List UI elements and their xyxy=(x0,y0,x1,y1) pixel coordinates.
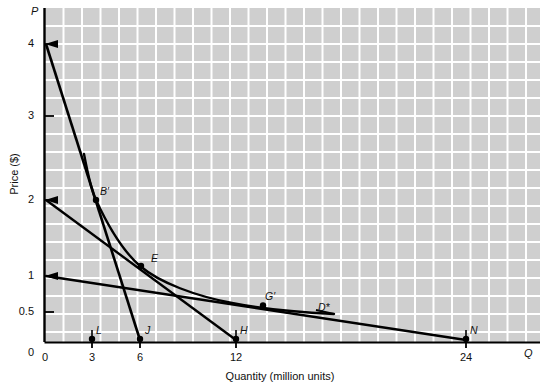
point-label-j: J xyxy=(145,325,150,336)
point-label-l: L xyxy=(96,325,102,336)
point-label-d-star: D* xyxy=(318,302,330,313)
y-tick-label-1: 1 xyxy=(12,270,34,281)
x-axis-symbol: Q xyxy=(524,348,533,359)
y-tick-label-3: 3 xyxy=(12,110,34,121)
point-label-b-prime: B′ xyxy=(100,186,109,197)
y-tick-label-0-5: 0.5 xyxy=(4,306,34,317)
y-axis-symbol: P xyxy=(31,6,38,17)
point-label-n: N xyxy=(470,325,478,336)
x-tick-label-12: 12 xyxy=(227,352,245,363)
x-tick-label-3: 3 xyxy=(84,352,100,363)
point-label-h: H xyxy=(240,325,248,336)
x-axis-title: Quantity (million units) xyxy=(200,371,360,382)
y-axis-title: Price ($) xyxy=(8,144,20,204)
x-tick-label-6: 6 xyxy=(132,352,148,363)
x-tick-label-24: 24 xyxy=(457,352,475,363)
point-label-e: E xyxy=(151,253,158,264)
chart-figure: P Q 4 3 2 1 0.5 0 0 3 6 12 24 B′ E G′ D*… xyxy=(0,0,547,390)
point-marker-j xyxy=(137,336,143,342)
chart-canvas xyxy=(0,0,547,390)
point-marker-g-prime xyxy=(260,302,266,308)
y-tick-label-4: 4 xyxy=(12,38,34,49)
y-tick-label-0: 0 xyxy=(12,347,34,358)
point-marker-b-prime xyxy=(93,197,99,203)
point-label-g-prime: G′ xyxy=(265,291,275,302)
point-marker-e xyxy=(138,263,144,269)
x-tick-label-0: 0 xyxy=(37,352,53,363)
